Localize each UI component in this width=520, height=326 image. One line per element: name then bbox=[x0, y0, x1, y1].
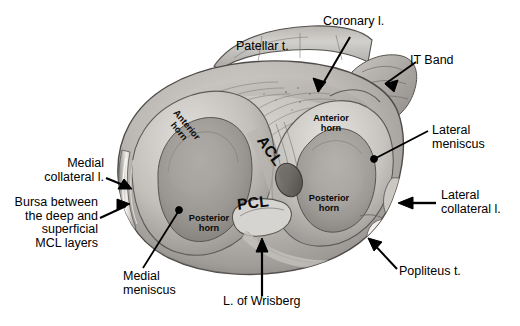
label-coronary-l: Coronary l. bbox=[323, 15, 384, 29]
leader-popliteus-t bbox=[368, 238, 397, 269]
label-medial-meniscus: Medial meniscus bbox=[123, 270, 176, 297]
label-lateral-meniscus: Lateral meniscus bbox=[432, 124, 485, 151]
label-lateral-collateral-l: Lateral collateral l. bbox=[441, 189, 501, 216]
label-medial-collateral-l: Medial collateral l. bbox=[0, 157, 104, 184]
label-popliteus-t: Popliteus t. bbox=[399, 265, 461, 279]
label-anterior-horn-lateral: Anterior horn bbox=[303, 113, 359, 133]
label-l-of-wrisberg: L. of Wrisberg bbox=[223, 295, 301, 309]
figure-canvas: Patellar t. Coronary l. IT Band Lateral … bbox=[0, 0, 520, 326]
leader-lateral-collateral-l bbox=[398, 197, 436, 209]
label-pcl: PCL bbox=[232, 196, 275, 210]
label-posterior-horn-lateral: Posterior horn bbox=[300, 193, 358, 213]
label-posterior-horn-medial: Posterior horn bbox=[180, 213, 238, 233]
label-patellar-t: Patellar t. bbox=[236, 40, 289, 54]
label-it-band: IT Band bbox=[410, 54, 454, 68]
label-bursa-mcl: Bursa between the deep and superficial M… bbox=[0, 196, 98, 250]
